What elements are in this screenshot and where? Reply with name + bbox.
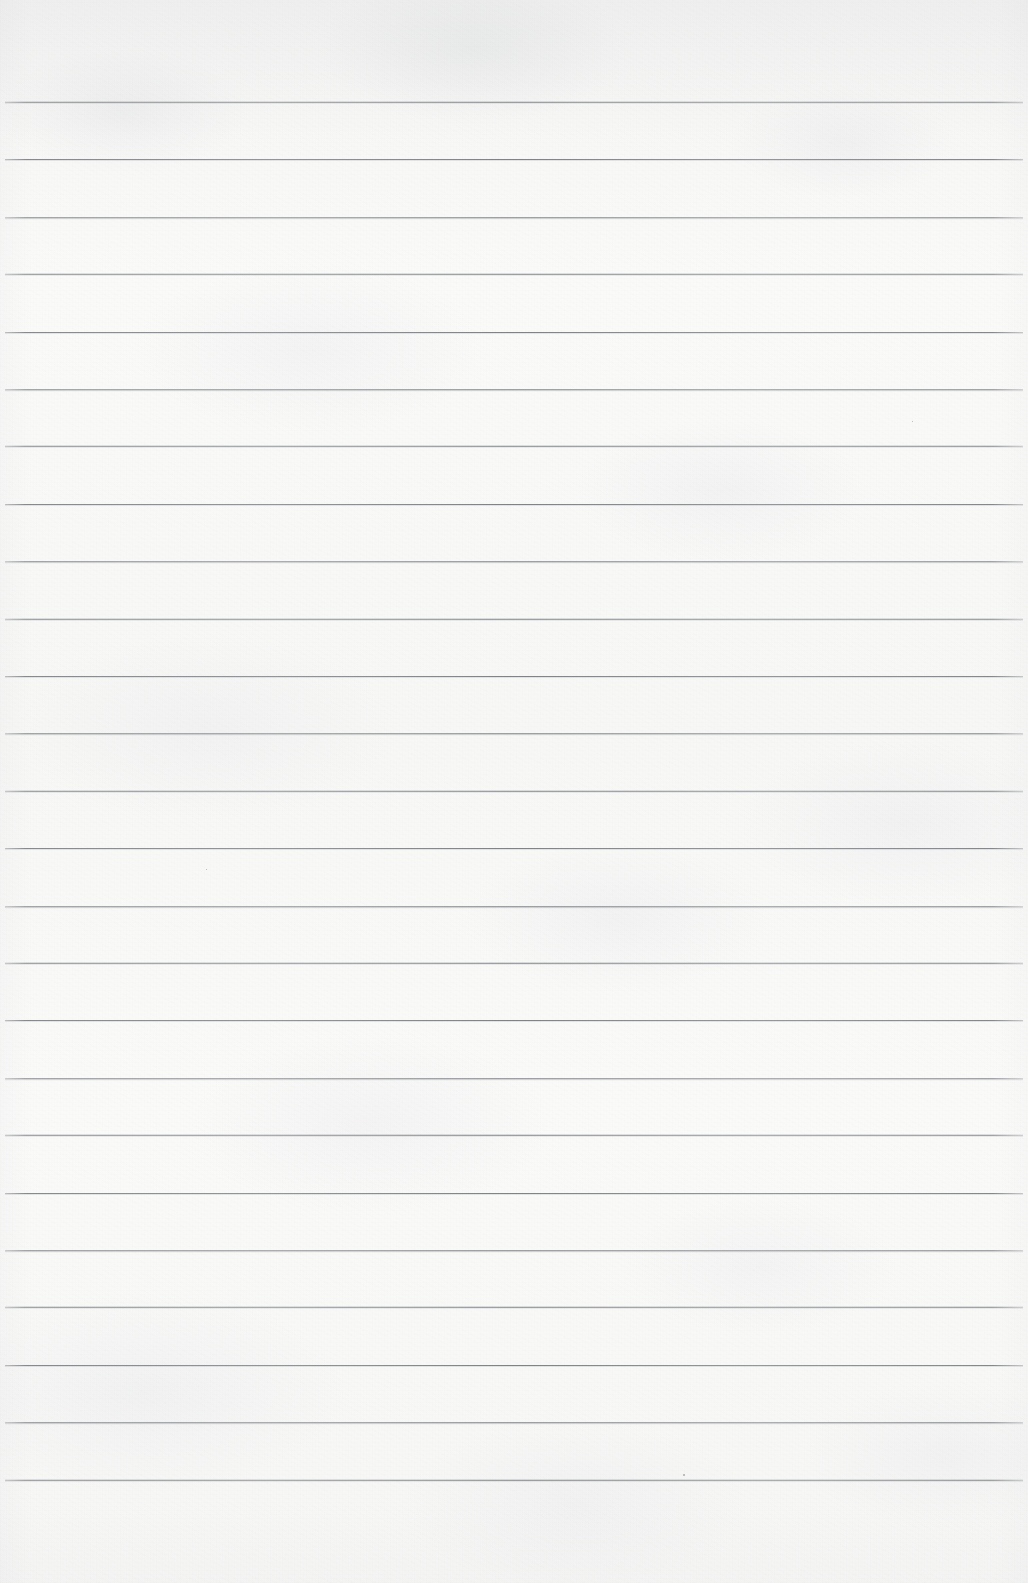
notebook-page xyxy=(0,0,1028,1583)
writing-area[interactable] xyxy=(5,102,1023,1480)
